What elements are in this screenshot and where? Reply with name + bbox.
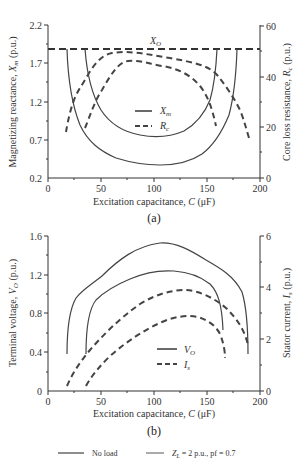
x-tick-label: 50 xyxy=(96,183,106,194)
legend-vo-label: VO xyxy=(184,344,195,357)
y-tick-label: 1.2 xyxy=(30,97,43,108)
y-right-tick-label: 4 xyxy=(266,282,271,293)
rc-loaded-curve xyxy=(85,61,216,128)
vo-loaded-curve xyxy=(86,271,223,354)
chart-b-right-ticks: 6 4 2 0 xyxy=(260,231,271,397)
y-right-tick-label: 60 xyxy=(266,21,276,32)
legend-xm-label: Xm xyxy=(159,105,171,118)
chart-b-legend: VO Is xyxy=(157,344,195,372)
vo-no-load-curve xyxy=(67,243,248,354)
chart-a-left-ticks: 2.2 1.7 1.2 0.7 0.2 xyxy=(30,20,49,184)
chart-a-ylabel-right: Core loss resistance, Rc (p.u.) xyxy=(281,43,294,161)
chart-a-right-ticks: 60 40 20 0 xyxy=(260,21,276,184)
chart-b: 1.6 1.2 0.8 0.4 0 6 4 2 0 xyxy=(7,231,294,438)
y-right-tick-label: 6 xyxy=(266,231,271,242)
x-tick-label: 200 xyxy=(253,396,268,407)
chart-a-xlabel: Excitation capacitance, C (μF) xyxy=(93,196,215,208)
y-tick-label: 1.6 xyxy=(30,231,43,242)
y-right-tick-label: 40 xyxy=(266,72,276,83)
chart-a: 2.2 1.7 1.2 0.7 0.2 60 40 20 0 xyxy=(7,20,294,225)
y-tick-label: 0.8 xyxy=(30,308,43,319)
x-tick-label: 0 xyxy=(46,396,51,407)
y-tick-label: 0 xyxy=(37,386,42,397)
y-tick-label: 1.7 xyxy=(30,58,43,69)
y-tick-label: 0.7 xyxy=(30,135,43,146)
chart-a-caption: (a) xyxy=(147,211,160,225)
xm-loaded-curve xyxy=(85,49,217,137)
x-tick-label: 100 xyxy=(147,183,162,194)
x-tick-label: 200 xyxy=(253,183,268,194)
chart-a-x-ticks: 0 50 100 150 200 xyxy=(46,178,268,194)
y-tick-label: 2.2 xyxy=(30,20,43,31)
chart-a-legend: Xm Rc xyxy=(135,105,171,133)
xo-annotation: XO xyxy=(149,35,161,48)
y-tick-label: 0.4 xyxy=(30,347,43,358)
figure: 2.2 1.7 1.2 0.7 0.2 60 40 20 0 xyxy=(0,0,301,474)
legend-loaded-label: ZL = 2 p.u., pf = 0.7 xyxy=(172,449,235,459)
is-loaded-curve xyxy=(86,316,225,386)
legend-is-label: Is xyxy=(183,359,190,372)
bottom-legend: No load ZL = 2 p.u., pf = 0.7 xyxy=(58,449,235,459)
chart-b-ylabel-right: Stator current, Is (p.u.) xyxy=(281,268,294,358)
chart-b-ylabel: Terminal voltage, VO (p.u.) xyxy=(7,259,20,367)
chart-b-left-ticks: 1.6 1.2 0.8 0.4 0 xyxy=(30,231,49,397)
chart-b-x-ticks: 0 50 100 150 200 xyxy=(46,391,268,407)
chart-b-xlabel: Excitation capacitance, C (μF) xyxy=(93,408,215,420)
x-tick-label: 150 xyxy=(200,396,215,407)
legend-no-load-label: No load xyxy=(92,449,118,458)
legend-rc-label: Rc xyxy=(159,120,170,133)
y-tick-label: 1.2 xyxy=(30,270,43,281)
x-tick-label: 50 xyxy=(96,396,106,407)
x-tick-label: 100 xyxy=(147,396,162,407)
y-tick-label: 0.2 xyxy=(30,173,43,184)
chart-a-ylabel: Magnetizing reactance, Xm (p.u.) xyxy=(7,36,20,167)
y-right-tick-label: 20 xyxy=(266,122,276,133)
y-right-tick-label: 2 xyxy=(266,334,271,345)
chart-b-caption: (b) xyxy=(147,424,161,438)
x-tick-label: 0 xyxy=(46,183,51,194)
x-tick-label: 150 xyxy=(200,183,215,194)
